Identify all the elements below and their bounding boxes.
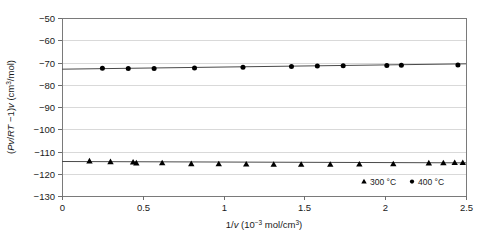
y-tick-label: −120 bbox=[34, 169, 55, 180]
y-tick-label: −90 bbox=[39, 102, 55, 113]
legend-marker-circle bbox=[410, 179, 414, 183]
data-point bbox=[152, 66, 157, 71]
y-tick-label: −60 bbox=[39, 35, 55, 46]
ylabel-minus-one: −1) bbox=[5, 108, 16, 125]
y-tick-label: −70 bbox=[39, 58, 55, 69]
ylabel-unit-close: /mol) bbox=[5, 60, 16, 81]
svg-text:(Pv/RT −1)v (cm3/mol): (Pv/RT −1)v (cm3/mol) bbox=[5, 60, 16, 154]
data-point bbox=[86, 158, 92, 164]
data-point bbox=[188, 161, 194, 167]
data-point bbox=[460, 159, 466, 165]
y-tick-label: −130 bbox=[34, 191, 55, 202]
data-point bbox=[356, 161, 362, 167]
chart-legend: 300 °C400 °C bbox=[361, 177, 444, 187]
svg-text:1/v (10−3 mol/cm3): 1/v (10−3 mol/cm3) bbox=[226, 219, 303, 231]
y-tick-label: −50 bbox=[39, 13, 55, 24]
data-point bbox=[341, 63, 346, 68]
x-tick-label: 2 bbox=[383, 202, 388, 213]
x-tick-label: 0.5 bbox=[137, 202, 150, 213]
y-tick-label: −110 bbox=[34, 147, 55, 158]
data-point bbox=[289, 64, 294, 69]
x-tick-label: 1.5 bbox=[298, 202, 311, 213]
trend-line-300C bbox=[62, 162, 466, 163]
ylabel-unit-open: (cm bbox=[5, 85, 16, 104]
x-tick-label: 1 bbox=[222, 202, 227, 213]
data-point bbox=[100, 66, 105, 71]
data-point bbox=[192, 66, 197, 71]
y-tick-label: −100 bbox=[34, 124, 55, 135]
xlabel-close: ) bbox=[299, 219, 302, 230]
xlabel-open: (10 bbox=[238, 219, 254, 230]
data-point bbox=[126, 66, 131, 71]
x-axis-tick-labels: 00.511.522.5 bbox=[60, 202, 473, 213]
chart-canvas: 00.511.522.5 −130−120−110−100−90−80−70−6… bbox=[0, 0, 491, 242]
data-point bbox=[159, 160, 165, 166]
trend-lines bbox=[62, 64, 466, 163]
y-axis-tick-labels: −130−120−110−100−90−80−70−60−50 bbox=[34, 13, 55, 202]
legend-label: 400 °C bbox=[418, 177, 444, 187]
data-point bbox=[390, 161, 396, 167]
x-tick-label: 0 bbox=[60, 202, 65, 213]
y-tick-label: −80 bbox=[39, 80, 55, 91]
grid-lines bbox=[62, 19, 466, 175]
xlabel-mid: mol/cm bbox=[262, 219, 295, 230]
y-axis-ticks bbox=[58, 19, 62, 197]
chart-figure: 00.511.522.5 −130−120−110−100−90−80−70−6… bbox=[0, 0, 491, 242]
legend-label: 300 °C bbox=[370, 177, 396, 187]
data-point bbox=[455, 62, 460, 67]
x-tick-label: 2.5 bbox=[460, 202, 473, 213]
legend-marker-triangle bbox=[361, 179, 366, 184]
data-point bbox=[451, 159, 457, 165]
data-series bbox=[86, 62, 466, 166]
trend-line-400C bbox=[62, 64, 466, 69]
data-point bbox=[240, 65, 245, 70]
data-point bbox=[384, 63, 389, 68]
data-point bbox=[399, 63, 404, 68]
data-point bbox=[315, 64, 320, 69]
x-axis-title: 1/v (10−3 mol/cm3) bbox=[226, 219, 303, 231]
y-axis-title: (Pv/RT −1)v (cm3/mol) bbox=[5, 60, 16, 154]
